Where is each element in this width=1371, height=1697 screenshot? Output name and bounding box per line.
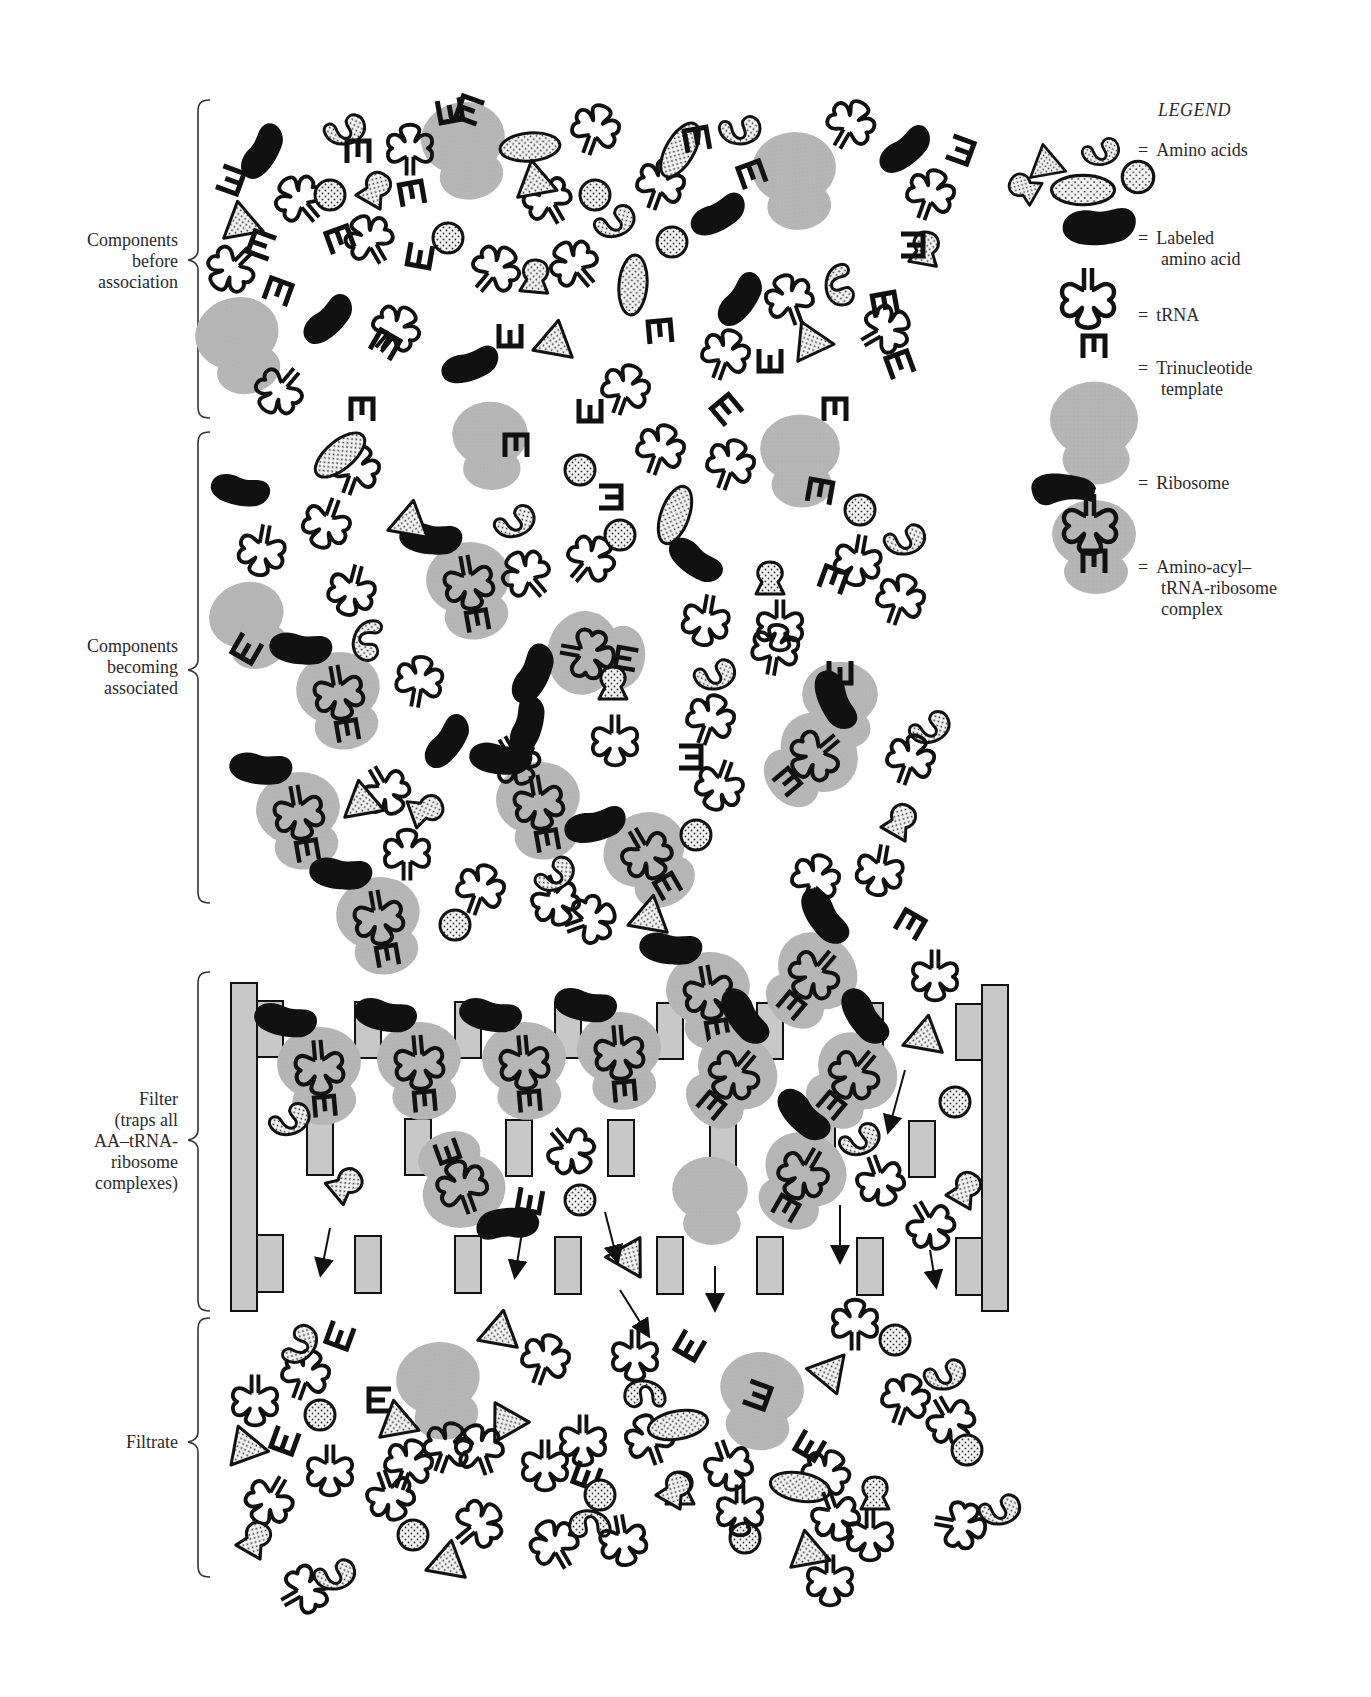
legend-label-line2: template (1161, 379, 1223, 399)
equals-sign: = (1138, 140, 1148, 160)
section-label-becoming-associated: Components becoming associated (8, 636, 178, 699)
bracket-filtrate (188, 1318, 210, 1577)
section-label-before-association: Components before association (8, 230, 178, 293)
legend-label: Ribosome (1156, 473, 1229, 493)
label-line: ribosome (8, 1152, 178, 1173)
bracket-before-association (188, 100, 210, 418)
label-line: association (8, 272, 178, 293)
bracket-becoming-associated (188, 432, 210, 903)
equals-sign: = (1138, 228, 1148, 248)
legend-item-trinucleotide-template: =Trinucleotide template (1138, 358, 1252, 400)
section-label-filtrate: Filtrate (8, 1432, 178, 1453)
legend-item-ribosome: =Ribosome (1138, 473, 1229, 494)
legend-label: Trinucleotide (1156, 358, 1252, 378)
legend-icons (1005, 136, 1154, 594)
trinucleotide-template-icon (1083, 336, 1105, 358)
legend-item-amino-acids: =Amino acids (1138, 140, 1248, 161)
bracket-filter (188, 972, 210, 1311)
label-line: Filtrate (8, 1432, 178, 1453)
label-line: Components (8, 636, 178, 657)
labeled-amino-acid-icon (1063, 208, 1136, 245)
equals-sign: = (1138, 557, 1148, 577)
amino-acids-icon (1005, 136, 1154, 205)
legend-label-line2: tRNA-ribosome (1161, 578, 1277, 598)
legend-label-line3: complex (1161, 599, 1223, 619)
legend-label: Labeled (1156, 228, 1214, 248)
label-line: before (8, 251, 178, 272)
equals-sign: = (1138, 358, 1148, 378)
section-filtrate (219, 1300, 1023, 1622)
legend-label-line2: amino acid (1161, 249, 1240, 269)
aminoacyl-trna-ribosome-complex-icon (1031, 474, 1136, 594)
section-before-association (187, 92, 974, 490)
legend-item-aminoacyl-complex: =Amino-acyl– tRNA-ribosome complex (1138, 557, 1277, 620)
label-line: becoming (8, 657, 178, 678)
equals-sign: = (1138, 473, 1148, 493)
legend-label: tRNA (1156, 305, 1199, 325)
label-line: Components (8, 230, 178, 251)
legend-item-trna: =tRNA (1138, 305, 1199, 326)
label-line: AA–tRNA- (8, 1131, 178, 1152)
ribosome-icon (1050, 382, 1138, 485)
legend-title: LEGEND (1158, 100, 1231, 121)
legend-label: Amino acids (1156, 140, 1248, 160)
legend-item-labeled-amino-acid: =Labeled amino acid (1138, 228, 1240, 270)
trna-icon (1062, 268, 1114, 328)
label-line: Filter (8, 1089, 178, 1110)
legend-label: Amino-acyl– (1156, 557, 1251, 577)
label-line: associated (8, 678, 178, 699)
equals-sign: = (1138, 305, 1148, 325)
section-label-filter: Filter (traps all AA–tRNA- ribosome comp… (8, 1089, 178, 1194)
label-line: (traps all (8, 1110, 178, 1131)
label-line: complexes) (8, 1173, 178, 1194)
